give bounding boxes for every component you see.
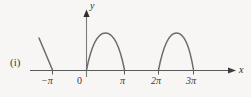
figure-canvas: (i) −π 0 π 2π 3π x y — [0, 0, 251, 97]
curve-arch-1 — [87, 33, 125, 70]
x-axis-arrow-icon — [228, 67, 236, 73]
tick-label-3pi: 3π — [186, 76, 196, 86]
tick-label-origin: 0 — [77, 76, 82, 86]
curve-left-branch — [39, 38, 53, 70]
y-axis-label: y — [90, 1, 94, 11]
x-axis-label: x — [239, 65, 243, 75]
tick-label-neg-pi: −π — [41, 76, 53, 86]
y-axis-arrow-icon — [83, 10, 89, 18]
graph-plot — [0, 0, 251, 97]
tick-label-2pi: 2π — [151, 76, 161, 86]
tick-label-pi: π — [120, 76, 125, 86]
curve-arch-2 — [159, 33, 194, 70]
